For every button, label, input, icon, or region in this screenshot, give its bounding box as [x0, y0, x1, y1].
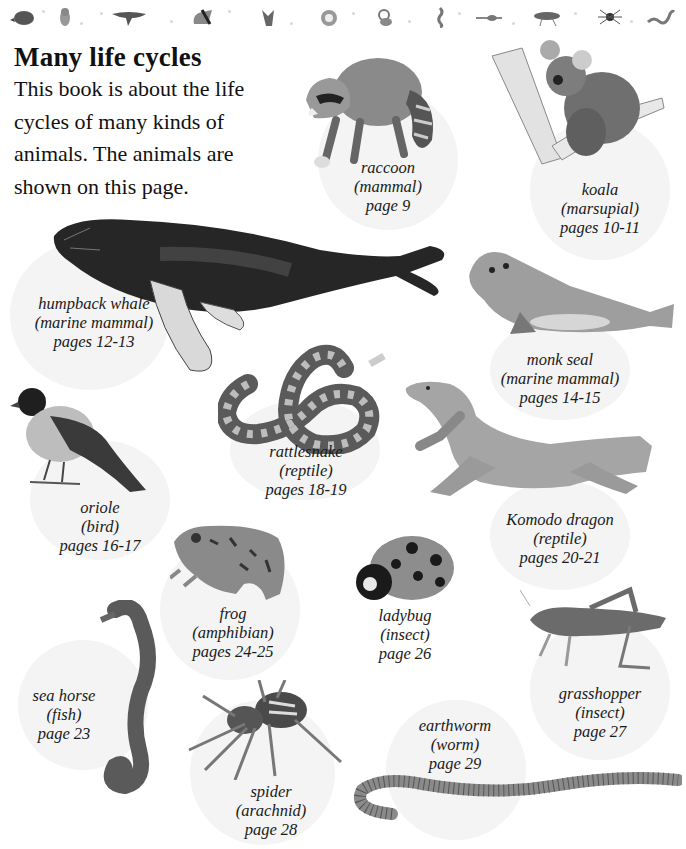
raccoon-illustration — [300, 40, 440, 170]
animal-label-frog: frog (amphibian) pages 24-25 — [168, 604, 298, 661]
worm-icon — [646, 6, 676, 28]
frog-icon — [374, 6, 400, 28]
animal-label-monk-seal: monk seal (marine mammal) pages 14-15 — [490, 350, 630, 407]
seahorse-icon — [428, 6, 454, 28]
whale-icon — [110, 6, 150, 28]
icon-strip — [0, 0, 686, 36]
monk-seal-illustration — [460, 242, 680, 342]
animal-label-rattlesnake: rattlesnake (reptile) pages 18-19 — [236, 442, 376, 499]
spider-illustration — [185, 680, 345, 780]
frog-illustration — [170, 520, 290, 605]
animal-label-ladybug: ladybug (insect) page 26 — [350, 606, 460, 663]
koala-illustration — [492, 36, 667, 166]
animal-label-sea-horse: sea horse (fish) page 23 — [14, 686, 114, 743]
koala-icon — [190, 6, 216, 28]
animal-label-spider: spider (arachnid) page 28 — [216, 782, 326, 839]
animal-label-grasshopper: grasshopper (insect) page 27 — [535, 684, 665, 741]
mole-icon — [10, 6, 36, 28]
raccoon-icon — [256, 6, 282, 28]
grasshopper-icon — [530, 6, 564, 28]
intro-text: This book is about the life cycles of ma… — [14, 73, 284, 203]
animal-label-earthworm: earthworm (worm) page 29 — [400, 716, 510, 773]
animal-label-humpback-whale: humpback whale (marine mammal) pages 12-… — [14, 294, 174, 351]
owl-icon — [52, 6, 78, 28]
animal-label-raccoon: raccoon (mammal) page 9 — [318, 158, 458, 215]
spider-icon — [596, 6, 622, 28]
animal-label-oriole: oriole (bird) pages 16-17 — [30, 498, 170, 555]
rattlesnake-illustration — [218, 344, 388, 454]
animal-label-komodo-dragon: Komodo dragon (reptile) pages 20-21 — [490, 510, 630, 567]
animal-label-koala: koala (marsupial) pages 10-11 — [535, 180, 665, 237]
oriole-illustration — [10, 380, 150, 495]
page-title: Many life cycles — [14, 42, 202, 73]
snake-icon — [316, 6, 342, 28]
lizard-icon — [474, 6, 504, 28]
earthworm-illustration — [352, 770, 682, 820]
grasshopper-illustration — [520, 586, 670, 672]
ladybug-illustration — [352, 530, 456, 610]
